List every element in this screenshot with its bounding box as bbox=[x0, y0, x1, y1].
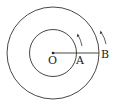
label-B: B bbox=[101, 48, 109, 61]
inner-rotation-arrow-icon bbox=[78, 35, 82, 46]
label-O: O bbox=[48, 54, 57, 67]
outer-rotation-arrow-icon bbox=[101, 32, 106, 44]
label-A: A bbox=[75, 54, 85, 67]
concentric-circles-diagram: O A B bbox=[0, 0, 113, 104]
